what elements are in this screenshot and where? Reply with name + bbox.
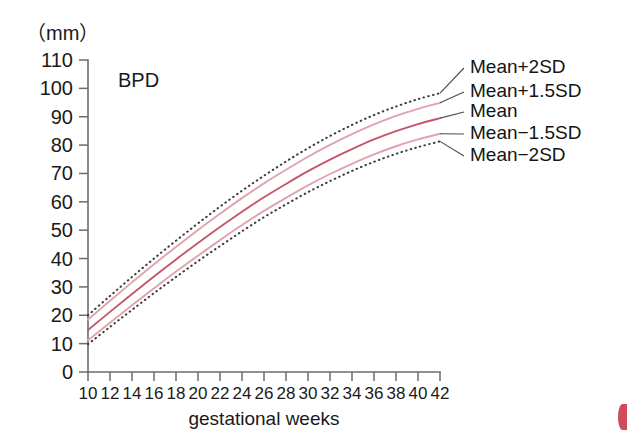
y-axis-unit-label: （mm） — [26, 22, 99, 44]
curve-meanplus2sd — [88, 93, 440, 315]
y-tick-label: 50 — [51, 219, 73, 241]
y-tick-label: 40 — [51, 248, 73, 270]
x-tick-label: 34 — [343, 384, 362, 403]
y-tick-label: 0 — [62, 361, 73, 383]
x-tick-label: 40 — [409, 384, 428, 403]
y-tick-label: 110 — [41, 49, 73, 71]
y-tick-label: 100 — [40, 77, 73, 99]
legend-label-3: Mean−1.5SD — [470, 122, 581, 143]
x-tick-label: 26 — [255, 384, 274, 403]
x-tick-label: 14 — [123, 384, 142, 403]
x-tick-label: 24 — [233, 384, 252, 403]
y-tick-label: 10 — [51, 333, 73, 355]
y-axis-ticks: 0102030405060708090100110 — [40, 49, 88, 383]
legend-leader-line — [440, 92, 464, 103]
x-axis-ticks: 1012141618202224262830323436384042 — [79, 372, 450, 403]
chart-axes — [88, 60, 440, 372]
x-tick-label: 36 — [365, 384, 384, 403]
y-tick-label: 90 — [51, 106, 73, 128]
legend-leader-line — [440, 112, 464, 118]
data-curves — [88, 93, 440, 344]
plot-title-bpd: BPD — [118, 69, 159, 91]
x-tick-label: 30 — [299, 384, 318, 403]
chart-canvas: 0102030405060708090100110 10121416182022… — [0, 0, 627, 441]
legend-label-4: Mean−2SD — [470, 144, 566, 165]
legend-label-1: Mean+1.5SD — [470, 80, 581, 101]
x-tick-label: 16 — [145, 384, 164, 403]
legend-label-2: Mean — [470, 100, 518, 121]
x-tick-label: 18 — [167, 384, 186, 403]
x-tick-label: 38 — [387, 384, 406, 403]
x-tick-label: 12 — [101, 384, 120, 403]
x-tick-label: 20 — [189, 384, 208, 403]
legend-leader-line — [440, 68, 464, 93]
legend-label-0: Mean+2SD — [470, 56, 566, 77]
y-tick-label: 60 — [51, 191, 73, 213]
y-tick-label: 20 — [51, 304, 73, 326]
y-tick-label: 80 — [51, 134, 73, 156]
bpd-growth-chart-figure: 0102030405060708090100110 10121416182022… — [0, 0, 627, 441]
legend-leader-line — [440, 141, 464, 156]
x-tick-label: 32 — [321, 384, 340, 403]
x-axis-title: gestational weeks — [188, 408, 339, 429]
x-tick-label: 22 — [211, 384, 230, 403]
legend: Mean+2SDMean+1.5SDMeanMean−1.5SDMean−2SD — [440, 56, 581, 165]
y-tick-label: 70 — [51, 162, 73, 184]
x-tick-label: 28 — [277, 384, 296, 403]
page-edge-artifact — [618, 404, 627, 430]
x-tick-label: 10 — [79, 384, 98, 403]
x-tick-label: 42 — [431, 384, 450, 403]
curve-meanminus2sd — [88, 141, 440, 344]
y-tick-label: 30 — [51, 276, 73, 298]
curve-meanminus1p5sd — [88, 134, 440, 340]
